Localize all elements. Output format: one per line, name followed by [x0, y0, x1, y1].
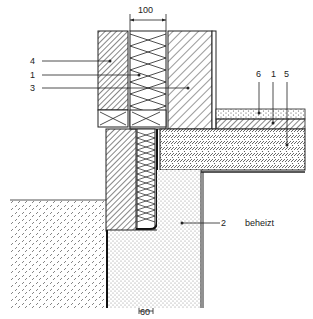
- callout-1-wall: 1: [30, 71, 35, 80]
- dimension-top-100: 100: [138, 6, 153, 15]
- concrete-slab: [160, 129, 305, 170]
- callout-4: 4: [30, 57, 35, 66]
- soil-fill: [10, 200, 106, 308]
- callout-2: 2: [221, 219, 226, 228]
- floor-screed: [216, 109, 305, 119]
- section-drawing: [0, 0, 313, 319]
- callout-1-floor: 1: [271, 70, 276, 79]
- basement-wall-lower: [106, 230, 201, 308]
- inner-leaf: [168, 31, 212, 129]
- callout-5: 5: [284, 70, 289, 79]
- foundation-stem: [106, 129, 136, 231]
- callout-3: 3: [30, 84, 35, 93]
- heated-annotation: beheizt: [245, 219, 274, 228]
- callout-6: 6: [256, 70, 261, 79]
- outer-leaf: [98, 31, 128, 110]
- basement-wall-upper: [157, 170, 201, 230]
- floor-insulation: [216, 119, 305, 129]
- dimension-bottom-60: 60: [140, 308, 150, 317]
